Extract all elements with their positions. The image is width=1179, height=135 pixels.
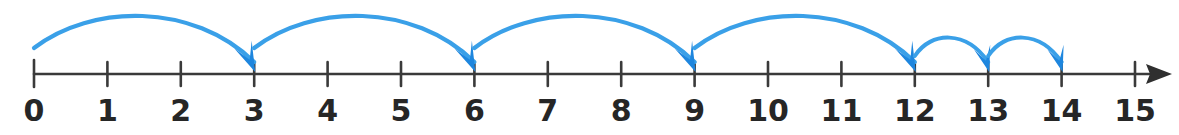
axis-group (34, 64, 1172, 84)
tick-label-1: 1 (97, 93, 118, 128)
jump-arc-12-to-13 (915, 38, 988, 62)
tick-label-11: 11 (821, 93, 863, 128)
tick-label-7: 7 (537, 93, 558, 128)
jump-arc-3-to-6 (254, 16, 474, 62)
tick-label-14: 14 (1041, 93, 1083, 128)
jump-arc-6-to-9 (474, 16, 694, 62)
tick-label-6: 6 (464, 93, 485, 128)
tick-label-4: 4 (317, 93, 338, 128)
tick-label-9: 9 (684, 93, 705, 128)
jump-arc-13-to-14 (988, 38, 1061, 62)
tick-label-8: 8 (611, 93, 632, 128)
tick-label-2: 2 (170, 93, 191, 128)
tick-label-3: 3 (244, 93, 265, 128)
tick-label-0: 0 (24, 93, 45, 128)
jump-arc-9-to-12 (695, 16, 915, 62)
tick-label-15: 15 (1114, 93, 1156, 128)
jump-arc-0-to-3 (34, 16, 254, 62)
tick-label-12: 12 (894, 93, 936, 128)
tick-labels-group: 0123456789101112131415 (24, 93, 1156, 128)
number-line-figure: 0123456789101112131415 (0, 0, 1179, 135)
tick-label-13: 13 (967, 93, 1009, 128)
number-line-svg: 0123456789101112131415 (0, 0, 1179, 135)
tick-label-10: 10 (747, 93, 789, 128)
tick-label-5: 5 (391, 93, 412, 128)
